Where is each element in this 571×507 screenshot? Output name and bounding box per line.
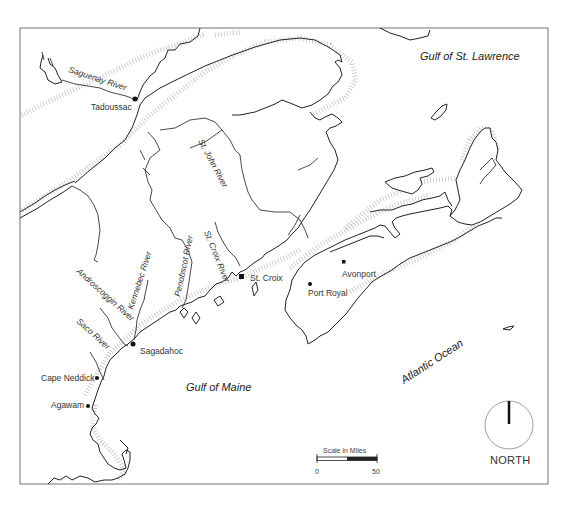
label-st-croix: St. Croix	[250, 273, 283, 283]
scale-title: Scale in Miles	[323, 447, 367, 454]
label-tadoussac: Tadoussac	[91, 102, 132, 112]
label-gulf-of-maine: Gulf of Maine	[186, 381, 251, 393]
cape-neddick-marker	[95, 376, 99, 380]
label-cape-neddick: Cape Neddick	[41, 373, 95, 383]
label-port-royal: Port Royal	[308, 288, 348, 298]
shallow-water-stipple	[22, 32, 500, 480]
st-croix-marker	[239, 274, 244, 279]
port-royal-marker	[308, 282, 312, 286]
scale-bar: Scale in Miles 0 50	[315, 447, 380, 475]
label-avonport: Avonport	[342, 269, 377, 279]
historical-map: Gulf of St. Lawrence Gulf of Maine Atlan…	[0, 0, 571, 507]
scale-min-label: 0	[315, 468, 319, 475]
avonport-marker	[342, 260, 346, 264]
label-st-croix-river: St. Croix River	[202, 229, 232, 285]
north-compass: NORTH	[485, 401, 533, 466]
tadoussac-marker	[133, 97, 138, 102]
label-agawam: Agawam	[51, 400, 84, 410]
label-gulf-st-lawrence: Gulf of St. Lawrence	[420, 50, 520, 62]
agawam-marker	[86, 404, 90, 408]
sagadahoc-marker	[131, 342, 136, 347]
label-sagadahoc: Sagadahoc	[140, 346, 184, 356]
scale-bar-dark-segment	[347, 457, 377, 461]
label-kennebec-river: Kennebec River	[125, 249, 154, 311]
label-st-john-river: St. John River	[196, 137, 230, 190]
label-atlantic-ocean: Atlantic Ocean	[398, 337, 465, 387]
compass-label: NORTH	[490, 454, 530, 466]
map-frame	[20, 28, 548, 484]
scale-max-label: 50	[372, 468, 380, 475]
label-saco-river: Saco River	[75, 316, 113, 352]
